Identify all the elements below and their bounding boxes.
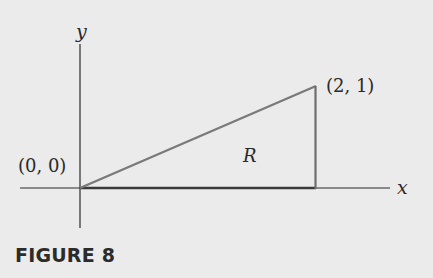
point-label-origin: (0, 0) <box>18 155 66 176</box>
y-axis-label: y <box>75 20 87 42</box>
x-axis-label: x <box>397 176 408 198</box>
figure-caption: FIGURE 8 <box>15 244 115 266</box>
point-label-corner: (2, 1) <box>326 75 374 96</box>
region-label: R <box>242 145 257 166</box>
region-hypotenuse-edge <box>80 86 316 188</box>
region-diagram: y x (0, 0) (2, 1) R <box>0 0 433 278</box>
